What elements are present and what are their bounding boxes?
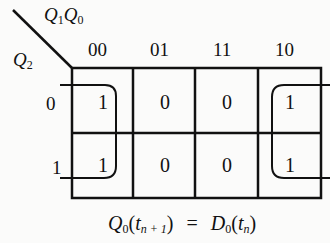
cell-r0-c11: 0 bbox=[196, 70, 258, 135]
row-header-1: 1 bbox=[52, 158, 62, 177]
cell-r1-c01: 0 bbox=[134, 133, 196, 198]
column-header-00: 00 bbox=[88, 40, 107, 59]
cell-r1-c11: 0 bbox=[196, 133, 258, 198]
row-variable-label: Q2 bbox=[13, 50, 33, 71]
row-header-0: 0 bbox=[46, 94, 56, 113]
column-header-01: 01 bbox=[150, 40, 169, 59]
cell-r1-c10: 1 bbox=[259, 133, 321, 198]
cell-r0-c00: 1 bbox=[72, 70, 134, 135]
cell-r0-c01: 0 bbox=[134, 70, 196, 135]
column-header-11: 11 bbox=[213, 40, 231, 59]
cell-r0-c10: 1 bbox=[259, 70, 321, 135]
cell-r1-c00: 1 bbox=[72, 133, 134, 198]
column-variables-label: Q1Q0 bbox=[44, 5, 83, 26]
column-header-10: 10 bbox=[275, 40, 294, 59]
equation: Q0(tn + 1) = D0(tn) bbox=[108, 213, 256, 235]
